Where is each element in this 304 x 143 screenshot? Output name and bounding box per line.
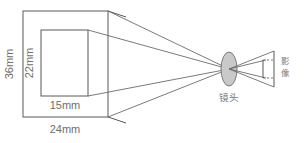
- ray-outer-top: [108, 11, 229, 69]
- lens-label: 镜头: [219, 92, 239, 103]
- inner-height-label: 22mm: [23, 48, 35, 79]
- outer-width-label: 24mm: [50, 123, 81, 135]
- inner-subject-rect: [41, 30, 88, 96]
- ray-inner-top: [88, 30, 229, 69]
- outer-height-label: 36mm: [3, 49, 15, 80]
- ray-inner-bottom: [88, 69, 229, 96]
- optics-diagram: 36mm 22mm 15mm 24mm 镜头 影 像: [0, 0, 304, 143]
- ray-outer-bottom: [108, 69, 229, 117]
- optics-diagram-canvas: 36mm 22mm 15mm 24mm 镜头 影 像: [0, 0, 304, 143]
- inner-width-label: 15mm: [50, 99, 81, 111]
- image-label-char-1: 影: [281, 56, 290, 66]
- box-depth-edge-bottom: [108, 117, 126, 123]
- image-label-char-2: 像: [281, 68, 290, 78]
